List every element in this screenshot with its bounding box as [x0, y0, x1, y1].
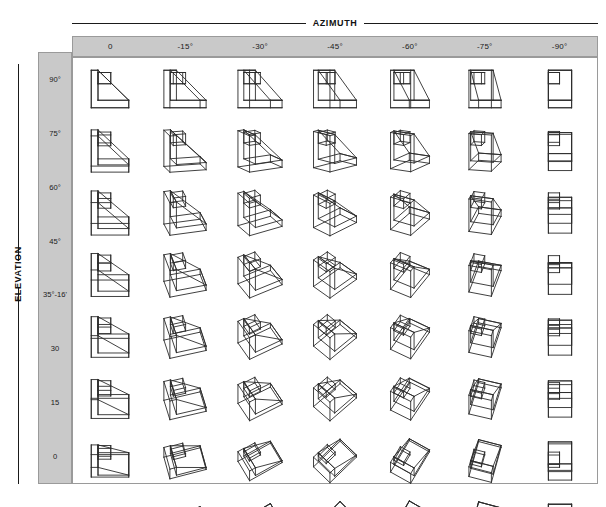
- projection-cell: [73, 182, 148, 244]
- projection-cell: [447, 244, 522, 306]
- projection-cell: [447, 306, 522, 368]
- projection-cell: [447, 492, 522, 507]
- projection-cell: [298, 368, 373, 430]
- azimuth-label-3: -45°: [298, 37, 373, 56]
- projection-cell: [522, 182, 597, 244]
- azimuth-label-2: -30°: [223, 37, 298, 56]
- projection-cell: [372, 182, 447, 244]
- elevation-label-0: 90°: [39, 53, 71, 107]
- projection-cell: [522, 368, 597, 430]
- projection-cell: [223, 368, 298, 430]
- projection-cell: [148, 306, 223, 368]
- projection-cell: [223, 58, 298, 120]
- projection-cell: [522, 492, 597, 507]
- azimuth-axis: AZIMUTH: [72, 16, 598, 30]
- azimuth-rule-right: [364, 23, 598, 24]
- projection-cell: [148, 120, 223, 182]
- projection-cell: [223, 120, 298, 182]
- projection-cell: [372, 430, 447, 492]
- projection-cell: [372, 58, 447, 120]
- elevation-rule-top: [18, 64, 19, 261]
- projection-cell: [447, 430, 522, 492]
- projection-cell: [522, 120, 597, 182]
- elevation-axis-title: ELEVATION: [5, 246, 31, 302]
- projection-cell: [298, 306, 373, 368]
- elevation-label-7: 0: [39, 429, 71, 483]
- elevation-axis: ELEVATION: [10, 64, 26, 484]
- projection-cell: [148, 244, 223, 306]
- projection-cell: [298, 492, 373, 507]
- projection-cell: [73, 492, 148, 507]
- projection-cell: [73, 120, 148, 182]
- viewing-angle-figure: AZIMUTH 0 -15° -30° -45° -60° -75° -90° …: [0, 0, 606, 507]
- projection-cell: [372, 120, 447, 182]
- projection-cell: [148, 182, 223, 244]
- projection-cell: [148, 58, 223, 120]
- projection-cell: [522, 58, 597, 120]
- projection-cell: [447, 368, 522, 430]
- azimuth-axis-title: AZIMUTH: [306, 18, 365, 28]
- azimuth-label-4: -60°: [372, 37, 447, 56]
- projection-cell: [223, 182, 298, 244]
- projection-cell: [298, 182, 373, 244]
- elevation-label-5: 30: [39, 322, 71, 376]
- azimuth-label-1: -15°: [148, 37, 223, 56]
- projection-cell: [73, 58, 148, 120]
- projection-cell: [73, 430, 148, 492]
- projection-cell: [223, 430, 298, 492]
- projection-cell: [298, 244, 373, 306]
- elevation-label-4: 35°-16': [39, 268, 71, 322]
- azimuth-header-band: 0 -15° -30° -45° -60° -75° -90°: [72, 36, 598, 57]
- elevation-label-2: 60°: [39, 161, 71, 215]
- projection-cell: [73, 368, 148, 430]
- elevation-label-6: 15: [39, 376, 71, 430]
- projection-cell: [447, 58, 522, 120]
- azimuth-label-0: 0: [73, 37, 148, 56]
- projection-cell: [223, 492, 298, 507]
- projection-cell: [522, 244, 597, 306]
- elevation-label-3: 45°: [39, 214, 71, 268]
- projection-cell: [148, 492, 223, 507]
- projection-cell: [148, 368, 223, 430]
- projection-grid: [72, 57, 598, 484]
- azimuth-label-5: -75°: [447, 37, 522, 56]
- projection-cell: [372, 492, 447, 507]
- projection-cell: [522, 430, 597, 492]
- projection-cell: [298, 120, 373, 182]
- projection-cell: [447, 182, 522, 244]
- azimuth-rule-left: [72, 23, 306, 24]
- projection-cell: [372, 244, 447, 306]
- azimuth-label-6: -90°: [522, 37, 597, 56]
- elevation-header-band: 90° 75° 60° 45° 35°-16' 30 15 0: [38, 52, 72, 484]
- projection-cell: [148, 430, 223, 492]
- projection-cell: [298, 58, 373, 120]
- projection-cell: [447, 120, 522, 182]
- projection-cell: [372, 306, 447, 368]
- projection-cell: [522, 306, 597, 368]
- projection-cell: [73, 244, 148, 306]
- projection-cell: [223, 306, 298, 368]
- elevation-rule-bottom: [18, 287, 19, 484]
- projection-cell: [372, 368, 447, 430]
- projection-cell: [298, 430, 373, 492]
- elevation-label-1: 75°: [39, 107, 71, 161]
- projection-cell: [223, 244, 298, 306]
- projection-cell: [73, 306, 148, 368]
